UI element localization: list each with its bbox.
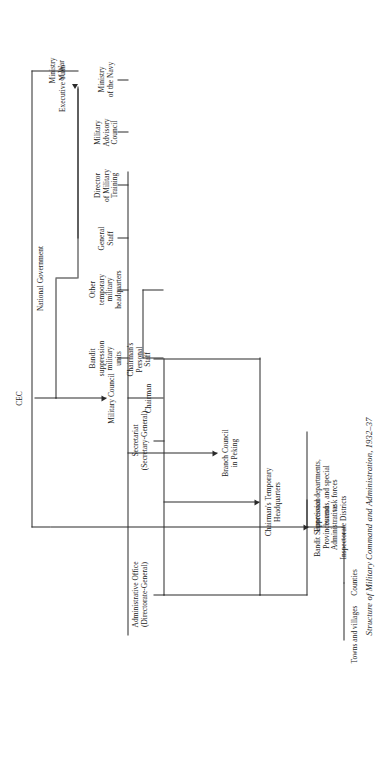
- org-chart-canvas: CEC National Government Executive Yuan M…: [0, 0, 389, 783]
- arrow-to-branch-council: [212, 450, 217, 456]
- node-secretariat-line2: (Secretary-General): [140, 392, 149, 488]
- node-ministry-navy-line1: Ministry: [97, 45, 106, 113]
- node-towns-label: Towns and villages: [349, 605, 358, 663]
- node-other-hq-line1: Other: [88, 256, 97, 322]
- edge-temp-hq-to-admin-office: [163, 594, 260, 595]
- node-branch-council-line1: Branch Council: [221, 410, 230, 495]
- edge-secretariat-to-bandit-provinces: [306, 431, 307, 527]
- edge-ministry-war-tick: [77, 88, 78, 238]
- arrow-to-temp-hq: [254, 499, 259, 505]
- rank-line-military-council: [127, 171, 128, 635]
- edge-towns-tick: [343, 582, 344, 640]
- node-cec[interactable]: CEC: [15, 368, 24, 428]
- node-personal-staff[interactable]: Chairman's Personal Staff: [126, 328, 152, 390]
- node-personal-staff-line1: Chairman's: [126, 328, 135, 390]
- node-admin-office[interactable]: Administrative Office (Directorate-Gener…: [131, 539, 148, 649]
- node-bandit-provinces-line1: Bandit Suppression: [313, 468, 322, 586]
- node-ministry-war[interactable]: Ministry of War: [48, 41, 65, 99]
- node-towns[interactable]: Towns and villages: [350, 588, 359, 680]
- node-temp-hq-line1: Chairman's Temporary: [264, 444, 273, 559]
- node-branch-council[interactable]: Branch Council in Peking: [221, 410, 238, 495]
- rank-line-chairman: [163, 359, 164, 595]
- edge-chairman-to-temp-hq: [163, 501, 259, 502]
- node-branch-council-line2: in Peking: [230, 410, 239, 495]
- tick-admin-office: [153, 594, 164, 595]
- node-ministry-war-line1: Ministry: [48, 41, 57, 99]
- node-director-training-line1: Director: [93, 153, 102, 217]
- tick-personal-staff: [153, 358, 164, 359]
- node-admin-office-line2: (Directorate-General): [140, 539, 149, 649]
- node-bandit-units-line4: units: [114, 326, 123, 390]
- node-other-hq-line4: headquarters: [114, 256, 123, 322]
- node-secretariat-line1: Secretariat: [131, 392, 140, 488]
- node-ministry-war-line2: of War: [57, 41, 66, 99]
- tick-ministry-navy: [117, 79, 128, 80]
- node-temp-hq[interactable]: Chairman's Temporary Headquarters: [264, 444, 281, 559]
- tick-secretariat: [153, 440, 164, 441]
- node-ministry-navy-line2: of the Navy: [106, 45, 115, 113]
- edge-cec-stem: [34, 397, 56, 398]
- rank-line-temp-hq: [259, 357, 260, 595]
- edge-chairman-to-other-hq: [142, 289, 163, 290]
- node-admin-office-line1: Administrative Office: [131, 539, 140, 649]
- node-bandit-provinces[interactable]: Bandit Suppression Provinces and Adminis…: [313, 468, 348, 586]
- node-bandit-units-line1: Bandit: [88, 326, 97, 390]
- arrow-to-military-council: [101, 395, 106, 401]
- node-ministry-navy[interactable]: Ministry of the Navy: [97, 45, 114, 113]
- node-director-training-line3: Training: [110, 153, 119, 217]
- node-bandit-units[interactable]: Bandit suppression military units: [88, 326, 123, 390]
- node-cec-label: CEC: [14, 391, 23, 406]
- figure-caption: Structure of Military Command and Admini…: [363, 417, 373, 635]
- edge-national-government-stem: [55, 277, 77, 278]
- node-director-training[interactable]: Director of Military Training: [93, 153, 119, 217]
- edge-executive-yuan-bracket-top: [31, 70, 32, 527]
- edge-executive-yuan-bracket-left: [31, 526, 50, 527]
- edge-temp-hq-to-personal-staff: [163, 358, 260, 359]
- edge-cec-to-military-council: [55, 397, 106, 398]
- node-national-government-label: National Government: [35, 245, 44, 310]
- node-bandit-provinces-line4: Inspectorate Districts: [339, 468, 348, 586]
- edge-admin-office-to-functional-depts: [259, 594, 307, 595]
- tick-general-staff: [117, 237, 128, 238]
- node-personal-staff-line3: Staff: [143, 328, 152, 390]
- edge-cec-to-national-government: [55, 278, 56, 398]
- node-national-government[interactable]: National Government: [36, 223, 45, 333]
- node-temp-hq-line2: Headquarters: [273, 444, 282, 559]
- node-secretariat[interactable]: Secretariat (Secretary-General): [131, 392, 148, 488]
